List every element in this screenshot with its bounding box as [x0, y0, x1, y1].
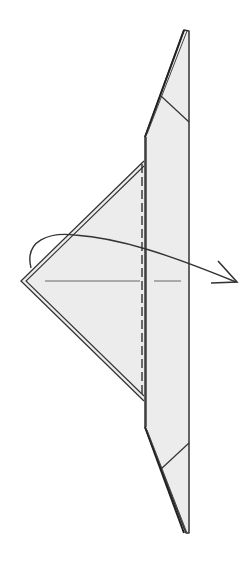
- arrow-head-icon: [211, 261, 237, 283]
- diagram-canvas: [0, 0, 249, 563]
